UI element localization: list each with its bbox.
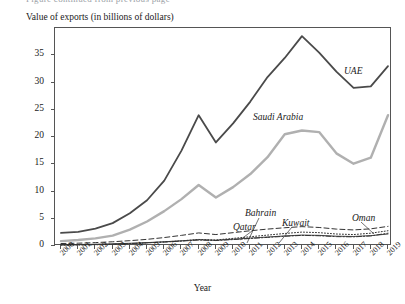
y-tick-label: 10 xyxy=(22,185,44,195)
x-axis-title: Year xyxy=(0,283,405,293)
y-tick-label: 35 xyxy=(22,48,44,58)
y-tick-label: 15 xyxy=(22,157,44,167)
y-tick-label: 25 xyxy=(22,103,44,113)
y-tick-label: 5 xyxy=(22,212,44,222)
series-label-uae: UAE xyxy=(344,66,362,76)
y-axis-title: Value of exports (in billions of dollars… xyxy=(26,12,174,22)
y-tick-label: 20 xyxy=(22,130,44,140)
export-value-line-chart: Figure continued from previous page Valu… xyxy=(0,0,405,304)
y-tick-label: 30 xyxy=(22,76,44,86)
cut-off-caption: Figure continued from previous page xyxy=(26,0,256,5)
series-label-qatar: Qatar xyxy=(233,222,256,232)
plot-area xyxy=(54,27,391,245)
series-label-kuwait: Kuwait xyxy=(282,218,309,228)
series-label-bahrain: Bahrain xyxy=(245,208,276,218)
series-line-uae xyxy=(61,36,388,233)
series-label-oman: Oman xyxy=(352,213,375,223)
series-label-saudi: Saudi Arabia xyxy=(253,112,303,122)
series-lines xyxy=(55,28,392,246)
y-tick-label: 0 xyxy=(22,239,44,249)
